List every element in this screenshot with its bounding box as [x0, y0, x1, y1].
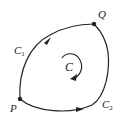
- q-label-text: Q: [98, 8, 106, 20]
- clockwise-arrowhead-icon: [70, 74, 77, 81]
- closed-curve-label: C: [65, 61, 73, 73]
- curve-c2-label: C2: [102, 99, 113, 112]
- point-p: [18, 97, 22, 101]
- curve-c1-label: C1: [14, 45, 25, 58]
- p-label-text: P: [10, 102, 17, 114]
- c-label-text: C: [65, 60, 73, 74]
- c1-label-sub: 1: [21, 50, 25, 58]
- line-integral-diagram: Q P C1 C2 C: [0, 0, 124, 117]
- curve-c1: [20, 24, 94, 99]
- point-p-label: P: [10, 103, 17, 114]
- c2-label-sub: 2: [109, 104, 113, 112]
- point-q-label: Q: [98, 9, 106, 20]
- point-q: [92, 22, 96, 26]
